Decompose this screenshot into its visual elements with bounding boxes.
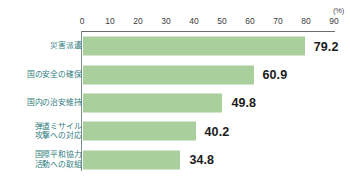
category-label: 災害派遣: [6, 41, 82, 51]
x-tick-label: 20: [133, 16, 142, 26]
bar: [83, 122, 196, 141]
bar-track: 79.2: [83, 37, 335, 56]
bar-value-label: 40.2: [205, 124, 230, 138]
bar-row: 国際平和協力 活動への取組34.8: [0, 146, 350, 174]
bar-value-label: 60.9: [263, 68, 288, 82]
axis-unit-label: (%): [333, 6, 344, 15]
bar-value-label: 79.2: [314, 39, 339, 53]
bar-track: 40.2: [83, 122, 335, 141]
x-tick-label: 30: [161, 16, 170, 26]
horizontal-bar-chart: (%) 0102030405060708090 災害派遣79.2国の安全の確保6…: [0, 0, 350, 196]
x-tick-label: 60: [245, 16, 254, 26]
bar: [83, 93, 222, 112]
x-tick-label: 0: [80, 16, 85, 26]
bar-value-label: 49.8: [231, 96, 256, 110]
bar-track: 49.8: [83, 93, 335, 112]
bar-track: 34.8: [83, 150, 335, 169]
x-tick-label: 40: [189, 16, 198, 26]
x-tick-label: 70: [273, 16, 282, 26]
x-tick-label: 10: [105, 16, 114, 26]
category-label: 弾道ミサイル 攻撃への対応: [6, 122, 82, 141]
bar-row: 国内の治安維持49.8: [0, 89, 350, 117]
category-label: 国の安全の確保: [6, 70, 82, 80]
bar-value-label: 34.8: [189, 153, 214, 167]
bar-row: 弾道ミサイル 攻撃への対応40.2: [0, 117, 350, 145]
bar-row: 災害派遣79.2: [0, 32, 350, 60]
x-tick-label: 90: [329, 16, 338, 26]
bar: [83, 37, 305, 56]
category-label: 国際平和協力 活動への取組: [6, 150, 82, 169]
plot-area: 災害派遣79.2国の安全の確保60.9国内の治安維持49.8弾道ミサイル 攻撃へ…: [0, 32, 350, 174]
x-tick-label: 50: [217, 16, 226, 26]
bar-track: 60.9: [83, 65, 335, 84]
category-label: 国内の治安維持: [6, 98, 82, 108]
bar: [83, 150, 180, 169]
x-axis-tick-labels: 0102030405060708090: [82, 16, 334, 30]
x-tick-label: 80: [301, 16, 310, 26]
bar: [83, 65, 254, 84]
bar-row: 国の安全の確保60.9: [0, 60, 350, 88]
